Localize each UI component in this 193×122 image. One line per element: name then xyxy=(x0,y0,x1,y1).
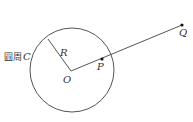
circle-label-prefix: 圓周 xyxy=(4,52,22,62)
geometry-diagram: 圓周 C R O P Q xyxy=(0,0,193,122)
circle-label-var: C xyxy=(23,51,31,62)
ray-o-to-q xyxy=(71,25,182,71)
point-p-label: P xyxy=(96,61,104,72)
center-label: O xyxy=(63,74,71,85)
radius-label: R xyxy=(59,47,68,58)
point-q-label: Q xyxy=(179,27,187,38)
